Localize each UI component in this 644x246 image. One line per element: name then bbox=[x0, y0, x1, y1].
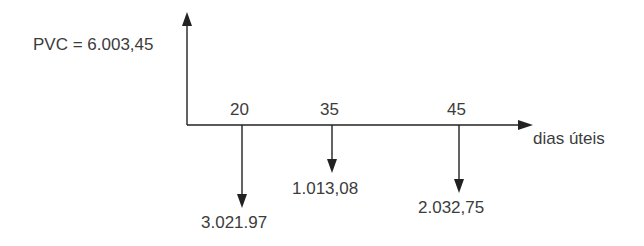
amount-label-20: 3.021.97 bbox=[201, 213, 267, 233]
arrow-up-icon bbox=[182, 12, 192, 26]
tick-label-20: 20 bbox=[230, 100, 249, 120]
arrow-down-icon bbox=[327, 159, 337, 173]
tick-label-35: 35 bbox=[320, 100, 339, 120]
time-axis bbox=[187, 120, 533, 130]
tick-label-45: 45 bbox=[447, 100, 466, 120]
vertical-axis bbox=[182, 12, 192, 125]
outflow-arrow-45 bbox=[454, 125, 464, 193]
axis-label: dias úteis bbox=[533, 129, 605, 149]
amount-label-45: 2.032,75 bbox=[418, 198, 484, 218]
arrow-down-icon bbox=[237, 194, 247, 208]
outflow-arrow-35 bbox=[327, 125, 337, 173]
arrow-down-icon bbox=[454, 179, 464, 193]
amount-label-35: 1.013,08 bbox=[292, 179, 358, 199]
outflow-arrow-20 bbox=[237, 125, 247, 208]
arrow-right-icon bbox=[518, 120, 533, 130]
present-value-label: PVC = 6.003,45 bbox=[33, 35, 154, 55]
